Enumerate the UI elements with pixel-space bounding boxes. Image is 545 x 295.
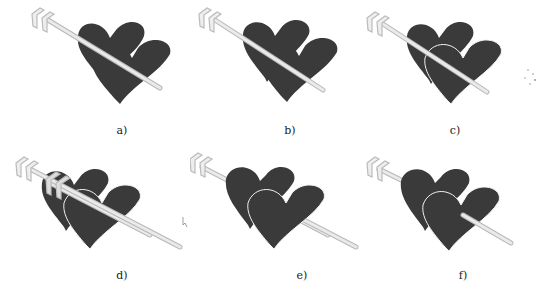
cursor-icon [183,217,187,227]
hearts-arrow-illustration [10,145,190,295]
front-heart [423,187,500,251]
arrow-fletching [190,153,212,177]
front-heart [261,38,338,102]
panel-e: e) [190,145,370,292]
panel-a: a) [20,0,200,147]
scatter-dots [524,69,536,85]
panel-f: f) [365,145,545,292]
front-heart [248,185,325,249]
caption-e: e) [282,269,322,282]
caption-d: d) [102,269,142,282]
panel-b: b) [195,0,375,147]
hearts-arrow-illustration [190,145,370,295]
caption-c: c) [435,124,475,137]
panel-c: c) [365,0,545,147]
caption-a: a) [102,124,142,137]
caption-b: b) [270,124,310,137]
arrow-fletching [367,157,389,181]
caption-f: f) [443,269,483,282]
front-heart [425,40,502,104]
panel-d: d) [10,145,190,292]
